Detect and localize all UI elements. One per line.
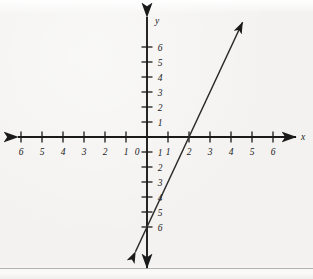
x-tick-label--5: 5: [40, 147, 45, 157]
x-tick-label--3: 3: [81, 147, 87, 157]
y-axis-label: y: [154, 16, 160, 26]
x-tick-label-3: 3: [207, 147, 213, 157]
y-tick-label-2: 2: [158, 103, 163, 113]
x-tick-label-4: 4: [229, 147, 234, 157]
y-tick-label-4: 4: [158, 73, 163, 83]
y-tick-label--3: 3: [157, 178, 163, 188]
x-tick-label-1: 1: [166, 147, 171, 157]
y-tick-label--2: 2: [158, 163, 163, 173]
x-tick-label--6: 6: [19, 147, 24, 157]
y-tick-label-6: 6: [158, 43, 163, 53]
x-tick-label--1: 1: [124, 147, 129, 157]
x-axis-label: x: [300, 132, 306, 142]
origin-label: 0: [135, 147, 140, 157]
coordinate-plane-svg: 6 5 4 3 2 1 1 2 3 4 5 6 x: [0, 0, 313, 279]
y-tick-label--1: 1: [158, 148, 163, 158]
y-tick-label--6: 6: [158, 223, 163, 233]
graph-figure: 6 5 4 3 2 1 1 2 3 4 5 6 x: [0, 0, 313, 279]
y-tick-label-5: 5: [158, 58, 163, 68]
x-tick-label-6: 6: [271, 147, 276, 157]
y-axis: 1 2 3 4 5 6 1 2 3 4 5 6 y: [142, 16, 163, 268]
x-tick-label--2: 2: [103, 147, 108, 157]
x-tick-label--4: 4: [61, 147, 66, 157]
y-tick-label-3: 3: [157, 88, 163, 98]
x-tick-label-2: 2: [187, 147, 192, 157]
y-tick-label--5: 5: [158, 208, 163, 218]
x-tick-label-5: 5: [250, 147, 255, 157]
y-tick-label-1: 1: [158, 118, 163, 128]
